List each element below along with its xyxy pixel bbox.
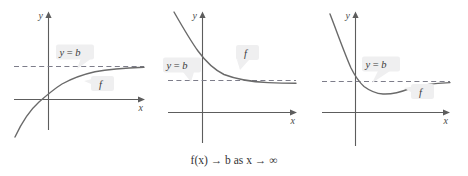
panel-middle-y-axis-arrowhead [199, 12, 205, 19]
panel-middle-y-axis-label: y [192, 10, 198, 21]
panel-middle-function-callout-tail [237, 60, 249, 70]
panel-left-y-axis-label: y [38, 10, 44, 21]
panel-right: y = b f y x [322, 10, 450, 147]
panel-left: y = b f y x [14, 10, 145, 138]
panel-left-curve [15, 67, 144, 137]
panel-middle-function-callout-box [236, 45, 259, 60]
figure-caption: f(x) → b as x → ∞ [191, 154, 278, 167]
panel-left-asymptote-label: y = b [59, 47, 81, 58]
panel-left-asymptote-callout-tail [77, 58, 92, 69]
panel-right-function-callout-box [411, 84, 434, 99]
figure-svg: y = b f y x y = b [0, 0, 468, 176]
panel-middle-x-axis-label: x [290, 115, 296, 126]
panel-middle-asymptote-label: y = b [166, 60, 188, 71]
panel-right-y-axis-label: y [345, 10, 351, 21]
panel-left-x-axis-label: x [138, 102, 144, 113]
panel-left-function-callout-box [91, 76, 114, 91]
panel-right-x-axis-label: x [443, 115, 449, 126]
figure-container: y = b f y x y = b [0, 0, 468, 176]
panel-right-asymptote-label: y = b [365, 59, 387, 70]
panel-left-y-axis-arrowhead [45, 12, 51, 19]
panel-middle: y = b f y x [163, 10, 297, 144]
panel-right-y-axis-arrowhead [352, 12, 358, 19]
panel-right-curve [330, 14, 450, 94]
